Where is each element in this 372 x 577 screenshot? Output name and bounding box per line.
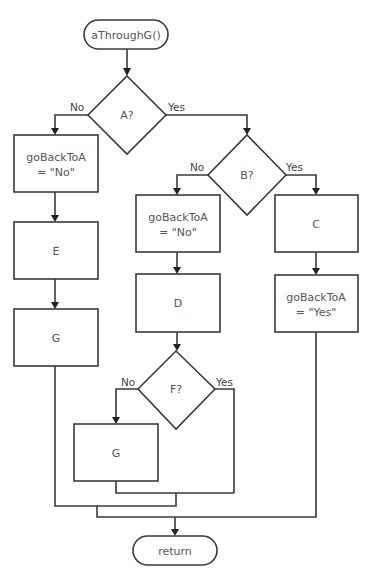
mid-set-goback-no-box: goBackToA = "No" [136, 195, 220, 252]
decision-f: F? [138, 351, 215, 429]
branch-label-a-no: No [70, 101, 84, 113]
end-label: return [158, 545, 192, 558]
left-g-box: G [14, 309, 98, 366]
arrow-head-icon [173, 344, 181, 351]
right-set-goback-yes-line1: goBackToA [286, 291, 346, 304]
start-terminal: aThroughG() [84, 20, 168, 49]
left-set-goback-no-line1: goBackToA [26, 151, 86, 164]
decision-b-label: B? [240, 169, 254, 182]
right-c-label: C [312, 218, 320, 231]
flowchart: aThroughG() A? No Yes goBackToA = "No" E… [0, 0, 372, 577]
arrow-head-icon [51, 128, 59, 135]
decision-a-label: A? [120, 109, 134, 122]
arrow-head-icon [312, 188, 320, 195]
arrow-head-icon [312, 268, 320, 275]
branch-label-f-no: No [121, 376, 135, 388]
decision-f-label: F? [170, 383, 182, 396]
end-terminal: return [133, 536, 217, 565]
branch-label-b-yes: Yes [285, 161, 303, 173]
arrow-head-icon [51, 215, 59, 222]
branch-label-a-yes: Yes [167, 101, 185, 113]
mid-set-goback-no-line1: goBackToA [148, 211, 208, 224]
branch-label-f-yes: Yes [215, 376, 233, 388]
arrow-head-icon [112, 417, 120, 424]
mid-g-label: G [112, 447, 121, 460]
arrow-head-icon [171, 529, 179, 536]
right-set-goback-yes-box: goBackToA = "Yes" [275, 275, 358, 332]
left-e-box: E [14, 222, 98, 279]
left-e-label: E [53, 245, 60, 258]
arrow-head-icon [173, 188, 181, 195]
connector-mid-merge [116, 481, 234, 493]
mid-d-label: D [174, 297, 182, 310]
arrow-head-icon [123, 68, 131, 76]
left-g-label: G [52, 332, 61, 345]
mid-g-box: G [74, 424, 158, 481]
start-label: aThroughG() [91, 29, 160, 42]
branch-label-b-no: No [190, 161, 204, 173]
mid-set-goback-no-line2: = "No" [159, 226, 197, 239]
arrow-head-icon [51, 302, 59, 309]
decision-a: A? [88, 76, 166, 154]
right-set-goback-yes-line2: = "Yes" [296, 306, 337, 319]
mid-d-box: D [136, 274, 220, 332]
left-set-goback-no-box: goBackToA = "No" [14, 135, 98, 192]
right-c-box: C [275, 195, 358, 252]
arrow-head-icon [173, 267, 181, 274]
left-set-goback-no-line2: = "No" [37, 166, 75, 179]
